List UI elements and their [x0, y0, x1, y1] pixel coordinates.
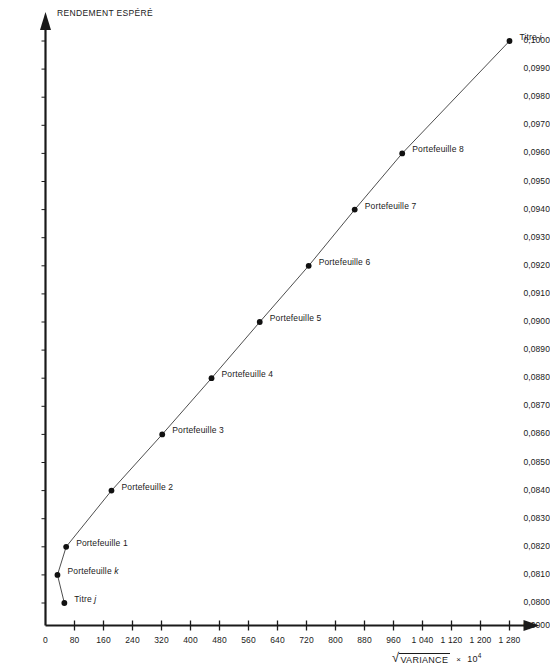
y-axis-tick-label: 0,0860	[508, 428, 550, 438]
y-axis-tick-label: 0,0870	[508, 400, 550, 410]
y-axis-tick-label: 0,0950	[508, 176, 550, 186]
y-axis-tick-label: 0,0900	[508, 316, 550, 326]
sqrt-icon: √ VARIANCE	[392, 653, 450, 665]
x-axis-scale-factor: 104	[467, 652, 482, 664]
y-axis-tick-label: 0,0830	[508, 513, 550, 523]
data-point-label: Titre i	[520, 32, 542, 42]
data-point-marker[interactable]	[159, 432, 165, 438]
x-axis-tick-label: 1 280	[485, 635, 535, 645]
data-point-marker[interactable]	[63, 544, 69, 550]
y-axis-tick-label: 0,0940	[508, 204, 550, 214]
data-point-label: Portefeuille 2	[121, 482, 173, 492]
data-point-label: Portefeuille 1	[76, 538, 128, 548]
y-axis-tick-label: 0,0840	[508, 485, 550, 495]
y-axis-tick-label: 0,0910	[508, 288, 550, 298]
multiply-icon: ×	[454, 655, 463, 664]
data-point-label: Portefeuille 7	[365, 201, 417, 211]
y-axis-tick-label: 0,0880	[508, 372, 550, 382]
data-point-label: Titre j	[74, 594, 96, 604]
data-point-label: Portefeuille 4	[222, 369, 274, 379]
y-axis-tick-label: 0,0800	[508, 597, 550, 607]
y-axis-tick-label: 0,0990	[508, 63, 550, 73]
y-axis-tick-label: 0,0980	[508, 91, 550, 101]
x-axis-title: √ VARIANCE × 104	[392, 652, 482, 665]
data-point-label: Portefeuille 5	[270, 313, 322, 323]
data-point-marker[interactable]	[109, 488, 115, 494]
x-axis-radicand: VARIANCE	[399, 653, 450, 665]
data-point-label: Portefeuille 8	[412, 144, 464, 154]
data-point-marker[interactable]	[61, 600, 67, 606]
y-axis-tick-label: 0,0810	[508, 569, 550, 579]
data-point-marker[interactable]	[352, 207, 358, 213]
data-point-marker[interactable]	[399, 151, 405, 157]
chart-canvas: RENDEMENT ESPÉRÉ 0,10000,09900,09800,097…	[0, 0, 550, 671]
y-axis-tick-label: 0,0000	[508, 620, 550, 630]
data-point-label: Portefeuille k	[67, 566, 118, 576]
y-axis-tick-label: 0,0960	[508, 147, 550, 157]
y-axis-tick-label: 0,0850	[508, 457, 550, 467]
y-axis-arrow-icon	[40, 12, 51, 30]
data-point-marker[interactable]	[306, 263, 312, 269]
data-point-marker[interactable]	[55, 572, 61, 578]
data-point-marker[interactable]	[257, 319, 263, 325]
y-axis-tick-label: 0,0930	[508, 232, 550, 242]
data-point-label: Portefeuille 6	[319, 257, 371, 267]
data-point-label: Portefeuille 3	[172, 425, 224, 435]
y-axis-tick-label: 0,0820	[508, 541, 550, 551]
y-axis-tick-label: 0,0970	[508, 119, 550, 129]
y-axis-tick-label: 0,0920	[508, 260, 550, 270]
y-axis-tick-label: 0,0890	[508, 344, 550, 354]
data-point-marker[interactable]	[209, 375, 215, 381]
